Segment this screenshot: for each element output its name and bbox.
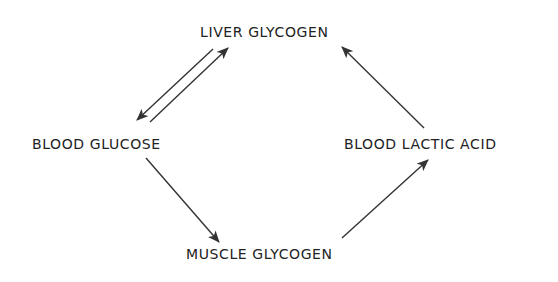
arrow-liver-to-glucose xyxy=(137,49,213,120)
glycogen-cycle-diagram: LIVER GLYCOGEN BLOOD GLUCOSE BLOOD LACTI… xyxy=(0,0,558,282)
node-blood-lactic-acid: BLOOD LACTIC ACID xyxy=(344,136,497,152)
node-muscle-glycogen: MUSCLE GLYCOGEN xyxy=(186,246,333,262)
node-blood-glucose: BLOOD GLUCOSE xyxy=(32,136,161,152)
arrow-glucose-to-muscle xyxy=(146,158,219,242)
arrow-muscle-to-lactic xyxy=(342,160,428,238)
arrow-lactic-to-liver xyxy=(342,47,424,128)
arrow-glucose-to-liver xyxy=(150,48,228,122)
node-liver-glycogen: LIVER GLYCOGEN xyxy=(200,24,328,40)
